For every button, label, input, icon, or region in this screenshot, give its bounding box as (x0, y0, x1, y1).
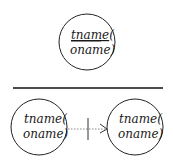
bottom-left-node-label-line2: oname) (23, 127, 69, 141)
bottom-left-node: tname( oname) (11, 99, 69, 155)
bottom-right-node-label-line2: oname) (118, 127, 164, 141)
bottom-right-node: tname( oname) (107, 99, 164, 155)
top-node-label-line1: tname( (71, 28, 114, 42)
top-node-circle (59, 14, 115, 70)
bottom-left-node-label-line1: tname( (24, 112, 67, 126)
dotted-arrow-connector (68, 118, 107, 140)
bottom-right-node-label-line1: tname( (119, 112, 162, 126)
diagram-canvas: tname( oname) tname( oname) tname( oname… (0, 0, 173, 163)
top-node-label-line2: oname) (70, 43, 116, 57)
top-node: tname( oname) (59, 14, 116, 70)
